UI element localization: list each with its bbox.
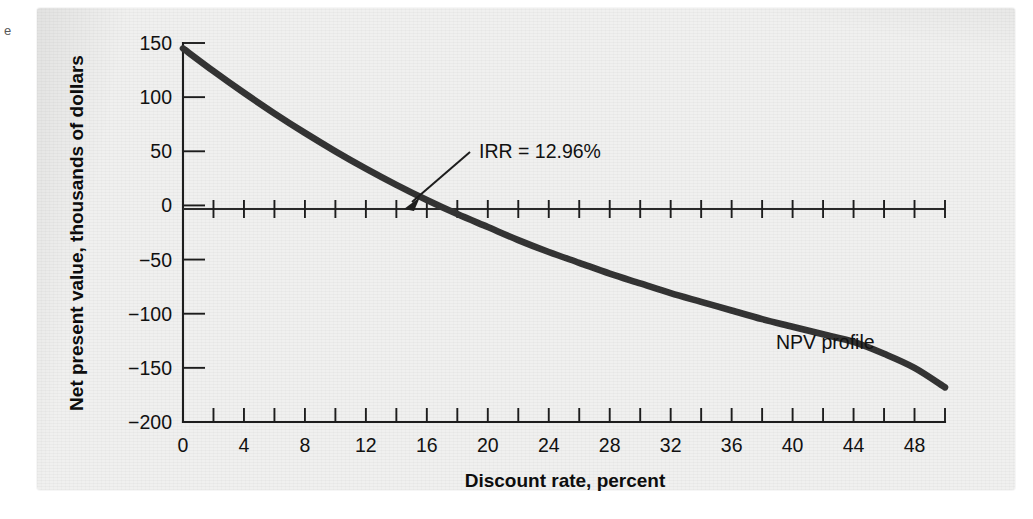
- x-axis-tick-labels: 04812162024283236404448: [178, 434, 926, 456]
- x-axis-title: Discount rate, percent: [465, 470, 666, 491]
- y-tick-label: −150: [128, 357, 172, 379]
- y-axis-title: Net present value, thousands of dollars: [66, 55, 87, 411]
- chart-axes: [183, 43, 945, 422]
- irr-annotation-label: IRR = 12.96%: [479, 140, 601, 162]
- y-tick-label: −50: [139, 249, 172, 271]
- npv-profile-chart: 150100500−50−100−150−200 048121620242832…: [0, 0, 1033, 519]
- y-tick-label: −100: [128, 303, 172, 325]
- x-tick-label: 28: [599, 434, 621, 456]
- x-tick-label: 20: [477, 434, 499, 456]
- x-tick-label: 4: [239, 434, 250, 456]
- npv-profile-annotation-label: NPV profile: [776, 331, 875, 353]
- x-tick-label: 48: [904, 434, 926, 456]
- x-tick-label: 40: [782, 434, 804, 456]
- y-tick-label: 100: [139, 86, 172, 108]
- x-axis-ticks-bottom: [183, 408, 945, 422]
- y-tick-label: 0: [161, 194, 172, 216]
- y-tick-label: −200: [128, 411, 172, 433]
- x-tick-label: 12: [355, 434, 377, 456]
- x-tick-label: 44: [843, 434, 865, 456]
- x-tick-label: 8: [299, 434, 310, 456]
- x-tick-label: 24: [538, 434, 560, 456]
- y-axis-ticks: [183, 43, 205, 368]
- x-tick-label: 32: [660, 434, 682, 456]
- x-tick-label: 0: [178, 434, 189, 456]
- y-tick-label: 150: [139, 32, 172, 54]
- y-tick-label: 50: [150, 140, 172, 162]
- x-tick-label: 16: [416, 434, 438, 456]
- x-tick-label: 36: [721, 434, 743, 456]
- y-axis-tick-labels: 150100500−50−100−150−200: [128, 32, 172, 433]
